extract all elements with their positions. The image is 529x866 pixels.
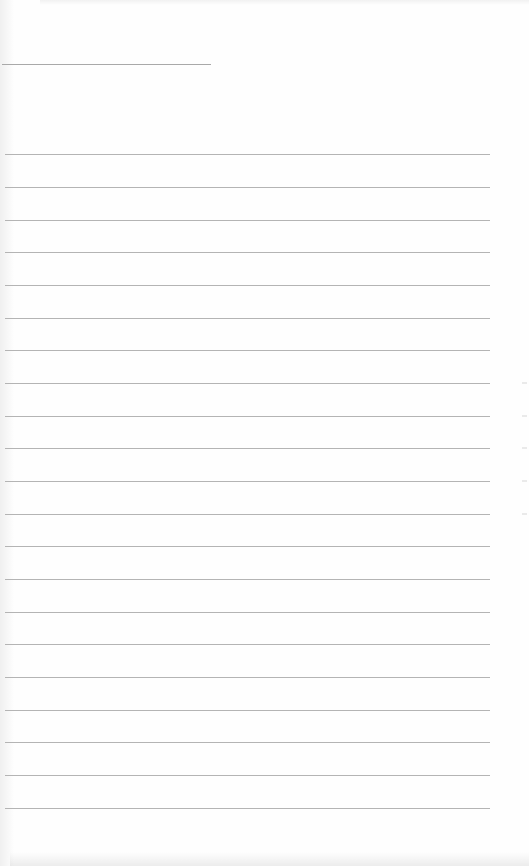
lined-paper-page [0, 0, 529, 866]
ruled-line [5, 416, 490, 417]
ruled-line [5, 448, 490, 449]
scan-artifact-mark [522, 513, 527, 515]
ruled-line [5, 481, 490, 482]
ruled-line [5, 220, 490, 221]
ruled-line [5, 710, 490, 711]
scan-artifact-mark [522, 480, 527, 482]
scan-edge-shadow [0, 0, 14, 866]
ruled-line [5, 644, 490, 645]
bottom-bleed-through [10, 852, 529, 866]
ruled-line [5, 742, 490, 743]
scan-artifact-mark [522, 415, 527, 417]
ruled-line [5, 546, 490, 547]
header-line [2, 64, 211, 65]
ruled-line [5, 677, 490, 678]
top-bleed-through [40, 0, 529, 5]
scan-artifact-mark [522, 447, 527, 449]
ruled-line [5, 383, 490, 384]
ruled-line [5, 612, 490, 613]
ruled-line [5, 187, 490, 188]
ruled-line [5, 154, 490, 155]
ruled-line [5, 285, 490, 286]
ruled-line [5, 514, 490, 515]
ruled-line [5, 579, 490, 580]
ruled-line [5, 808, 490, 809]
ruled-line [5, 252, 490, 253]
scan-artifact-mark [522, 382, 527, 384]
ruled-line [5, 318, 490, 319]
ruled-line [5, 350, 490, 351]
ruled-line [5, 775, 490, 776]
